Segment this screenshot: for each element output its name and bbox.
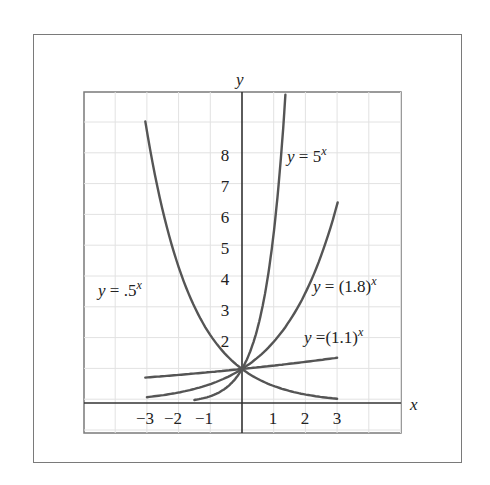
y-axis-label: y xyxy=(234,70,244,89)
label-1.1x: y =(1.1)x xyxy=(302,325,364,347)
label-0.5x-body: = .5 xyxy=(106,281,137,300)
y-tick-label: 2 xyxy=(221,332,230,351)
y-tick-label: 4 xyxy=(221,270,230,289)
label-0.5x-exponent: x xyxy=(135,278,142,292)
label-5x: y = 5x xyxy=(285,144,327,166)
label-1.8x-y: y xyxy=(311,277,321,296)
y-tick-label: 6 xyxy=(221,208,230,227)
label-5x-y: y xyxy=(285,147,295,166)
x-tick-label: 1 xyxy=(269,409,278,428)
y-tick-label: 3 xyxy=(221,301,230,320)
label-0.5x: y = .5x xyxy=(96,278,142,300)
x-tick-label: −1 xyxy=(195,409,213,428)
y-tick-label: 7 xyxy=(221,177,230,196)
label-5x-body: = 5 xyxy=(295,147,322,166)
exponential-functions-chart: y x −3−2−1123 2345678 y = 5x y = .5x y =… xyxy=(0,0,490,485)
x-tick-label: −2 xyxy=(164,409,182,428)
label-1.1x-y: y xyxy=(302,328,312,347)
x-axis-label: x xyxy=(409,395,418,414)
x-tick-label: 3 xyxy=(333,409,342,428)
label-1.8x-exponent: x xyxy=(370,274,377,288)
y-tick-label: 8 xyxy=(221,146,230,165)
label-5x-exponent: x xyxy=(320,144,327,158)
x-tick-label: 2 xyxy=(301,409,310,428)
label-1.8x: y = (1.8)x xyxy=(311,274,377,296)
y-tick-label: 5 xyxy=(221,239,230,258)
label-1.1x-exponent: x xyxy=(357,325,364,339)
label-1.8x-body: = (1.8) xyxy=(321,277,372,296)
label-1.1x-body: =(1.1) xyxy=(312,328,358,347)
label-0.5x-y: y xyxy=(96,281,106,300)
x-tick-label: −3 xyxy=(136,409,154,428)
